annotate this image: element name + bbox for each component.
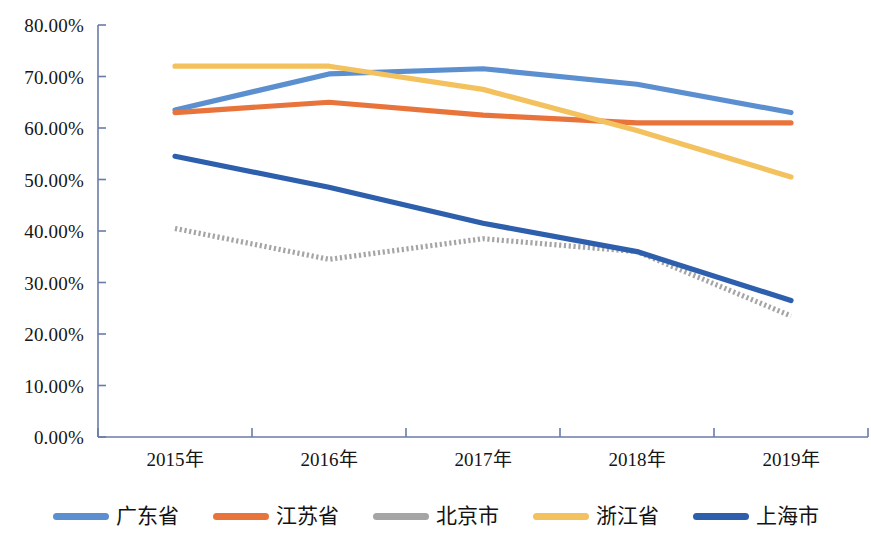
legend-item[interactable]: 浙江省 — [533, 506, 659, 527]
legend-item[interactable]: 北京市 — [373, 506, 499, 527]
legend-item-label: 北京市 — [436, 506, 499, 527]
legend-swatch-icon — [693, 513, 749, 520]
legend-item-label: 上海市 — [756, 506, 819, 527]
legend-item[interactable]: 江苏省 — [213, 506, 339, 527]
legend-swatch-icon — [533, 513, 589, 520]
legend-item-label: 广东省 — [116, 506, 179, 527]
legend-swatch-icon — [53, 513, 109, 520]
x-axis-tick-labels: 2015年2016年2017年2018年2019年 — [98, 448, 868, 482]
x-axis-tick-label: 2018年 — [609, 448, 666, 472]
x-axis-tick-label: 2016年 — [301, 448, 358, 472]
chart-legend: 广东省江苏省北京市浙江省上海市 — [0, 498, 871, 535]
x-axis-tick-label: 2015年 — [147, 448, 204, 472]
legend-item-label: 江苏省 — [276, 506, 339, 527]
legend-swatch-icon — [213, 513, 269, 520]
legend-swatch-icon — [373, 513, 429, 520]
x-axis-tick-label: 2017年 — [455, 448, 512, 472]
legend-item[interactable]: 广东省 — [53, 506, 179, 527]
line-chart: 0.00%10.00%20.00%30.00%40.00%50.00%60.00… — [0, 0, 871, 535]
series-line-1 — [175, 102, 791, 123]
legend-item[interactable]: 上海市 — [693, 506, 819, 527]
legend-item-label: 浙江省 — [596, 506, 659, 527]
x-axis-tick-label: 2019年 — [763, 448, 820, 472]
